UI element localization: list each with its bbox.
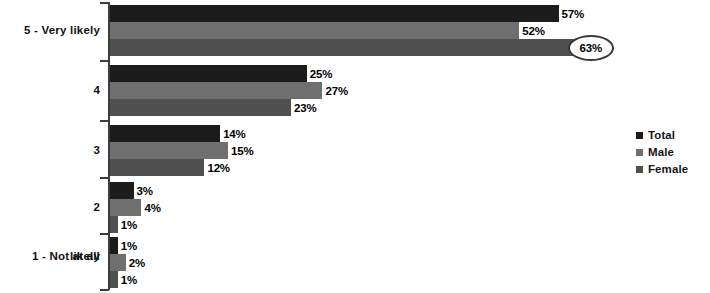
chart-legend: TotalMaleFemale [636, 128, 688, 176]
legend-swatch-icon [636, 132, 643, 139]
value-label: 27% [323, 84, 349, 98]
legend-label: Male [648, 146, 674, 158]
legend-swatch-icon [636, 149, 643, 156]
value-label: 2% [127, 256, 147, 270]
category-label-line: likely [0, 250, 100, 263]
axis-tick [100, 233, 109, 235]
value-label: 25% [308, 67, 334, 81]
bar-total-4 [110, 182, 134, 199]
value-label: 4% [142, 201, 162, 215]
bar-female-1 [110, 39, 606, 56]
legend-label: Female [648, 163, 688, 175]
bar-male-1 [110, 22, 519, 39]
value-label: 1% [119, 218, 139, 232]
legend-label: Total [648, 129, 675, 141]
bar-female-4 [110, 216, 118, 233]
bar-male-3 [110, 142, 228, 159]
bar-total-3 [110, 125, 220, 142]
bar-male-2 [110, 82, 322, 99]
bar-male-4 [110, 199, 141, 216]
axis-tick [100, 60, 109, 62]
value-label: 57% [560, 7, 586, 21]
bar-chart: 5 - Very likely4321 - Not at alllikely 5… [0, 0, 710, 293]
legend-item-total[interactable]: Total [636, 128, 688, 142]
value-label: 12% [205, 161, 231, 175]
bar-total-5 [110, 237, 118, 254]
value-label: 23% [292, 101, 318, 115]
category-label-line: 2 [0, 201, 100, 214]
value-label: 15% [229, 144, 255, 158]
legend-swatch-icon [636, 166, 643, 173]
bar-male-5 [110, 254, 126, 271]
legend-item-male[interactable]: Male [636, 145, 688, 159]
axis-tick [100, 120, 109, 122]
bar-total-2 [110, 65, 307, 82]
axis-tick [100, 289, 109, 291]
axis-tick [100, 2, 109, 4]
category-label-line: 5 - Very likely [0, 24, 100, 37]
value-label: 3% [135, 184, 155, 198]
bar-total-1 [110, 5, 559, 22]
category-label-line: 4 [0, 84, 100, 97]
bar-female-2 [110, 99, 291, 116]
axis-tick [100, 177, 109, 179]
highlight-callout-63: 63% [568, 35, 614, 61]
bar-female-5 [110, 271, 118, 288]
value-label: 1% [119, 239, 139, 253]
bar-female-3 [110, 159, 204, 176]
value-label: 14% [221, 127, 247, 141]
category-label-line: 3 [0, 144, 100, 157]
legend-item-female[interactable]: Female [636, 162, 688, 176]
value-label: 1% [119, 273, 139, 287]
value-label: 52% [520, 24, 546, 38]
